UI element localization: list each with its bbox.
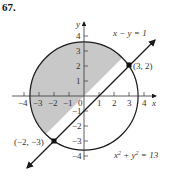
y-tick-label: −2 <box>72 121 82 131</box>
x-tick-label: 1 <box>97 98 102 108</box>
problem-number: 67. <box>2 1 16 13</box>
y-tick-label: 4 <box>76 31 81 41</box>
intersection-point <box>52 139 57 144</box>
y-axis-label: y <box>75 19 80 29</box>
intersection-point <box>127 63 132 68</box>
x-tick-label: −4 <box>18 98 28 108</box>
graph-figure: 67. −4 −3 −2 −1 0 1 2 3 4 x 4 3 2 1 −1 −… <box>0 0 174 195</box>
y-tick-label: 3 <box>76 46 81 56</box>
x-tick-label: −2 <box>48 98 58 108</box>
y-tick-label: 2 <box>76 61 81 71</box>
circle-label: x2 + y2 = 13 <box>113 150 159 160</box>
x-axis-label: x <box>151 98 156 108</box>
y-tick-label: −4 <box>72 151 82 161</box>
x-tick-label: 2 <box>112 98 117 108</box>
x-tick-label: 4 <box>142 98 147 108</box>
y-tick-label: −3 <box>72 136 82 146</box>
x-tick-label: 3 <box>127 98 132 108</box>
point-label: (3, 2) <box>133 61 153 71</box>
x-tick-label: −3 <box>33 98 43 108</box>
y-tick-label: 1 <box>76 76 81 86</box>
point-label: (−2, −3) <box>14 137 44 147</box>
line-label: x − y = 1 <box>112 28 147 38</box>
